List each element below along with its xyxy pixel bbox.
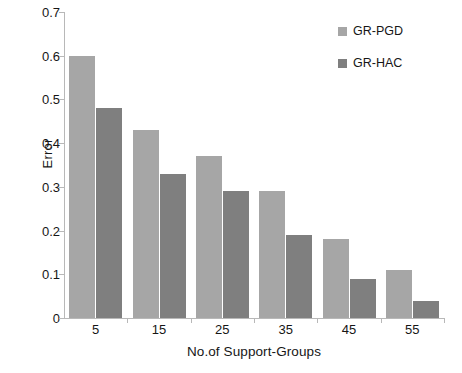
legend-swatch-icon [338, 59, 347, 68]
y-axis-tick-label: 0.6 [22, 48, 60, 63]
bar-chart: Error 0.70.60.50.40.30.20.10 51525354555… [0, 0, 462, 373]
legend-label: GR-PGD [353, 24, 403, 38]
x-axis-tick-label: 55 [405, 322, 419, 337]
bar [160, 174, 186, 318]
y-axis-tick-label: 0.2 [22, 223, 60, 238]
bar [323, 239, 349, 318]
legend-entry: GR-PGD [338, 22, 450, 40]
x-axis-tick-label: 15 [152, 322, 166, 337]
bar [196, 156, 222, 318]
y-axis-tick-label: 0.1 [22, 267, 60, 282]
legend: GR-PGDGR-HAC [338, 22, 450, 86]
bar [133, 130, 159, 318]
y-axis-tick-label: 0.3 [22, 179, 60, 194]
x-axis-tick-mark [444, 318, 445, 323]
legend-swatch-icon [338, 27, 347, 36]
x-axis-tick-label: 5 [92, 322, 99, 337]
x-axis-tick-label: 25 [215, 322, 229, 337]
bar [286, 235, 312, 318]
y-axis-tick-labels: 0.70.60.50.40.30.20.10 [22, 12, 60, 318]
y-axis-tick-label: 0.5 [22, 92, 60, 107]
bar [413, 301, 439, 318]
x-axis-tick-labels: 51525354555 [64, 322, 444, 342]
legend-label: GR-HAC [353, 56, 402, 70]
y-axis-tick-label: 0 [22, 311, 60, 326]
bar [259, 191, 285, 318]
x-axis-tick-label: 35 [278, 322, 292, 337]
bar [386, 270, 412, 318]
y-axis-tick-label: 0.4 [22, 136, 60, 151]
bar [69, 56, 95, 318]
bar [96, 108, 122, 318]
y-axis-tick-mark [59, 318, 64, 319]
bar [223, 191, 249, 318]
x-axis-title: No.of Support-Groups [64, 344, 444, 359]
bar [350, 279, 376, 318]
legend-entry: GR-HAC [338, 54, 450, 72]
y-axis-tick-label: 0.7 [22, 5, 60, 20]
x-axis-tick-label: 45 [342, 322, 356, 337]
